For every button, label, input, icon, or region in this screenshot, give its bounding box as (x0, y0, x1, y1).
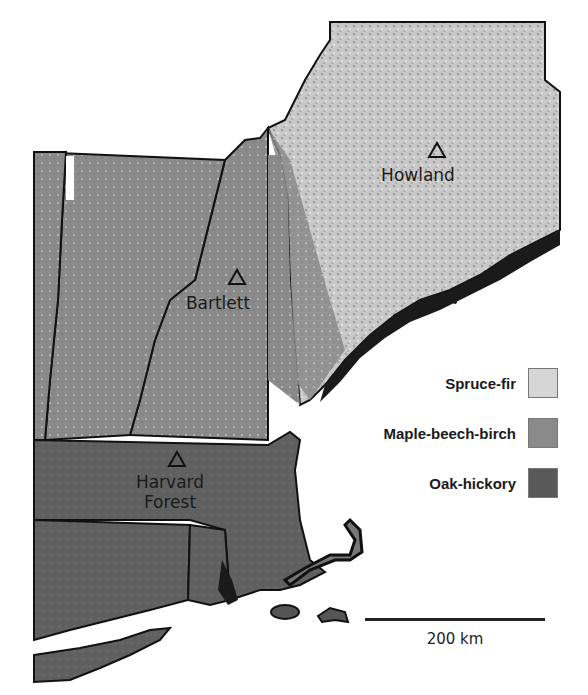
howland-site-triangle-icon (427, 141, 447, 159)
legend-label: Maple-beech-birch (383, 425, 516, 442)
howland-label: Howland (368, 165, 468, 185)
legend-swatch-maple-beech-birch (528, 418, 558, 448)
scale-bar (365, 618, 545, 621)
harvard-forest-site-triangle-icon (167, 450, 187, 468)
legend-item-spruce-fir: Spruce-fir (383, 367, 558, 399)
harvard-forest-label: Harvard Forest (120, 472, 220, 512)
bartlett-site-triangle-icon (227, 268, 247, 286)
forest-type-map (0, 0, 588, 695)
scale-bar-label: 200 km (365, 630, 545, 648)
legend-item-maple-beech-birch: Maple-beech-birch (383, 417, 558, 449)
long-island-region (34, 628, 170, 682)
bartlett-label: Bartlett (168, 293, 268, 313)
legend-swatch-spruce-fir (528, 368, 558, 398)
harvard-forest-label-line1: Harvard (120, 472, 220, 492)
lake-champlain (66, 156, 74, 200)
legend: Spruce-fir Maple-beech-birch Oak-hickory (383, 367, 558, 517)
legend-item-oak-hickory: Oak-hickory (383, 467, 558, 499)
connecticut-region (34, 520, 190, 640)
harvard-forest-label-line2: Forest (120, 492, 220, 512)
legend-label: Oak-hickory (429, 475, 516, 492)
maine-region (268, 22, 560, 405)
legend-swatch-oak-hickory (528, 468, 558, 498)
legend-label: Spruce-fir (445, 375, 516, 392)
